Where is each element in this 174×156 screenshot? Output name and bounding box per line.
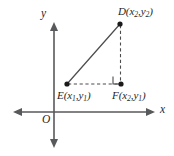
segment-de-hypotenuse [67, 24, 120, 84]
point-f-x-subscript: 2 [127, 94, 131, 103]
point-label-e: E(x1,y1) [57, 90, 91, 101]
axes-group [13, 22, 155, 148]
point-e-x-subscript: 1 [72, 94, 76, 103]
point-label-d: D(x2,y2) [118, 6, 153, 17]
point-f-paren-close: ) [142, 89, 146, 101]
coordinate-plane-figure: y x O D(x2,y2) E(x1,y1) F(x2,y1) [0, 0, 174, 156]
x-axis-right-arrow-icon [146, 108, 155, 116]
point-e-letter: E [57, 89, 64, 101]
vertex-dot-d [117, 21, 122, 26]
triangle-group [67, 24, 121, 84]
vertex-dot-f [118, 81, 123, 86]
point-e-y-subscript: 1 [83, 94, 87, 103]
origin-label: O [42, 114, 50, 126]
x-axis-label: x [160, 104, 165, 116]
y-axis-bottom-arrow-icon [50, 139, 58, 148]
point-d-paren-close: ) [149, 5, 153, 17]
y-axis-label: y [41, 8, 46, 20]
vertex-dot-e [64, 81, 69, 86]
x-axis-left-arrow-icon [13, 108, 22, 116]
point-d-letter: D [118, 5, 126, 17]
point-f-y-subscript: 1 [138, 94, 142, 103]
y-axis-top-arrow-icon [50, 22, 58, 31]
point-e-paren-close: ) [87, 89, 91, 101]
point-d-x-subscript: 2 [134, 10, 138, 19]
figure-canvas [0, 0, 174, 156]
point-d-y-subscript: 2 [145, 10, 149, 19]
point-label-f: F(x2,y1) [112, 90, 146, 101]
point-f-letter: F [112, 89, 119, 101]
